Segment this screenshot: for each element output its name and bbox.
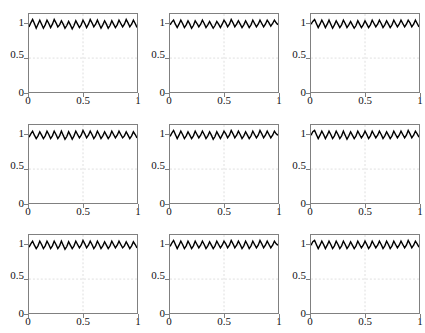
- y-tick-mark: [165, 134, 169, 135]
- y-tick-label: 1: [109, 17, 165, 28]
- x-tick-mark: [365, 93, 366, 97]
- y-tick-label: 0.5: [0, 49, 24, 60]
- x-tick-mark: [169, 314, 170, 318]
- y-tick-mark: [306, 58, 310, 59]
- y-tick-mark: [165, 244, 169, 245]
- y-tick-mark: [165, 23, 169, 24]
- x-tick-mark: [224, 93, 225, 97]
- subplot-panel-r2c3: 00.5100.51: [282, 111, 423, 222]
- x-tick-mark: [420, 93, 421, 97]
- x-tick-mark: [28, 93, 29, 97]
- x-tick-mark: [224, 204, 225, 208]
- y-tick-label: 0.5: [109, 160, 165, 171]
- y-tick-mark: [306, 23, 310, 24]
- gridlines: [311, 235, 419, 313]
- y-tick-label: 0.5: [109, 49, 165, 60]
- x-tick-mark: [169, 93, 170, 97]
- x-tick-label: 1: [408, 206, 425, 217]
- y-tick-label: 1: [109, 128, 165, 139]
- y-tick-label: 1: [250, 17, 306, 28]
- y-tick-mark: [24, 23, 28, 24]
- y-tick-label: 1: [0, 128, 24, 139]
- y-tick-mark: [24, 244, 28, 245]
- subplot-panel-r1c3: 00.5100.51: [282, 0, 423, 111]
- y-tick-mark: [165, 169, 169, 170]
- plot-area: [310, 124, 420, 204]
- x-tick-mark: [83, 314, 84, 318]
- y-tick-label: 1: [250, 128, 306, 139]
- x-tick-mark: [420, 204, 421, 208]
- gridlines: [311, 125, 419, 203]
- y-tick-mark: [24, 169, 28, 170]
- y-tick-label: 1: [250, 238, 306, 249]
- y-tick-mark: [165, 279, 169, 280]
- x-tick-mark: [365, 314, 366, 318]
- x-tick-mark: [28, 314, 29, 318]
- y-tick-label: 0.5: [0, 270, 24, 281]
- y-tick-label: 1: [0, 238, 24, 249]
- plot-canvas: [311, 125, 419, 203]
- x-tick-label: 1: [408, 316, 425, 327]
- y-tick-label: 0.5: [0, 160, 24, 171]
- y-tick-mark: [306, 169, 310, 170]
- plot-canvas: [311, 14, 419, 92]
- x-tick-mark: [310, 314, 311, 318]
- y-tick-mark: [24, 134, 28, 135]
- y-tick-mark: [165, 58, 169, 59]
- y-tick-label: 1: [109, 238, 165, 249]
- x-tick-mark: [169, 204, 170, 208]
- x-tick-mark: [420, 314, 421, 318]
- y-tick-label: 0.5: [109, 270, 165, 281]
- plot-canvas: [311, 235, 419, 313]
- plot-area: [310, 234, 420, 314]
- x-tick-label: 1: [408, 95, 425, 106]
- y-tick-mark: [306, 244, 310, 245]
- x-tick-mark: [28, 204, 29, 208]
- plot-area: [310, 13, 420, 93]
- figure-multipanel-grid: 00.5100.5100.5100.5100.5100.5100.5100.51…: [0, 0, 425, 333]
- x-tick-mark: [83, 93, 84, 97]
- y-tick-label: 0.5: [250, 270, 306, 281]
- y-tick-label: 0.5: [250, 160, 306, 171]
- x-tick-mark: [310, 204, 311, 208]
- y-tick-mark: [24, 58, 28, 59]
- y-tick-label: 1: [0, 17, 24, 28]
- y-tick-mark: [24, 279, 28, 280]
- y-tick-label: 0.5: [250, 49, 306, 60]
- subplot-panel-r3c3: 00.5100.51: [282, 221, 423, 332]
- gridlines: [311, 14, 419, 92]
- x-tick-mark: [310, 93, 311, 97]
- y-tick-mark: [306, 279, 310, 280]
- x-tick-mark: [365, 204, 366, 208]
- x-tick-mark: [224, 314, 225, 318]
- x-tick-mark: [83, 204, 84, 208]
- y-tick-mark: [306, 134, 310, 135]
